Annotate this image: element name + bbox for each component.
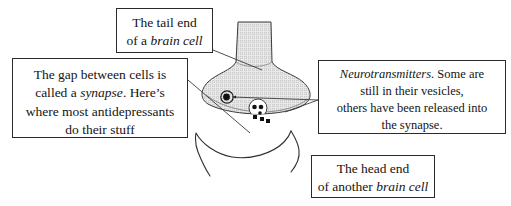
callout-head-end-line-2: of another brain cell	[312, 178, 434, 196]
callout-tail-end-line-1: The tail end	[117, 14, 212, 32]
callout-synapse-gap-line-2-italic: synapse	[80, 85, 123, 100]
callout-synapse-gap: The gap between cells is called a synaps…	[12, 58, 188, 138]
callout-neurotransmitters-line-1: Neurotransmitters. Some are	[319, 66, 505, 83]
callout-tail-end-line-2-plain: of a	[126, 33, 150, 48]
callout-synapse-gap-line-2-plain-a: called a	[35, 85, 80, 100]
callout-synapse-gap-line-2: called a synapse. Here’s	[13, 84, 187, 102]
synapse-diagram-figure: The tail end of a brain cell The gap bet…	[0, 0, 511, 206]
callout-head-end-line-1: The head end	[312, 160, 434, 178]
callout-synapse-gap-line-1: The gap between cells is	[13, 66, 187, 84]
callout-head-end-line-2-italic: brain cell	[376, 179, 428, 194]
callout-tail-end-line-2: of a brain cell	[117, 32, 212, 50]
callout-neurotransmitters-line-2: still in their vesicles,	[319, 83, 505, 100]
callout-tail-end-line-2-italic: brain cell	[150, 33, 202, 48]
callout-tail-end: The tail end of a brain cell	[116, 8, 213, 53]
callout-head-end-line-2-plain: of another	[318, 179, 376, 194]
callout-synapse-gap-line-3: where most antidepressants	[13, 103, 187, 121]
callout-neurotransmitters-line-1-italic: Neurotransmitters	[340, 67, 431, 81]
callout-neurotransmitters-line-1-plain: . Some are	[431, 67, 484, 81]
callout-synapse-gap-line-4: do their stuff	[13, 121, 187, 139]
callout-neurotransmitters: Neurotransmitters. Some are still in the…	[318, 60, 506, 134]
callout-neurotransmitters-line-4: the synapse.	[319, 117, 505, 134]
postsynaptic-dendrite-icon	[196, 131, 300, 176]
callout-head-end: The head end of another brain cell	[311, 155, 435, 198]
callout-neurotransmitters-line-3: others have been released into	[319, 100, 505, 117]
callout-synapse-gap-line-2-plain-b: . Here’s	[123, 85, 165, 100]
